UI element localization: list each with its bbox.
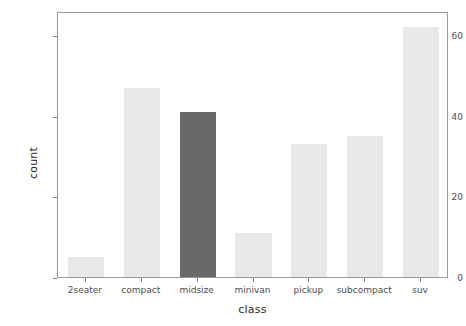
x-axis-title: class: [57, 303, 448, 316]
bar-subcompact[interactable]: [347, 136, 383, 277]
x-tick-label: 2seater: [68, 285, 102, 295]
x-tick-label: midsize: [179, 285, 213, 295]
bar-compact[interactable]: [124, 88, 160, 277]
x-tick-mark: [308, 278, 309, 282]
x-tick-mark: [420, 278, 421, 282]
x-tick-label: pickup: [294, 285, 324, 295]
bar-minivan[interactable]: [235, 233, 271, 277]
bar-pickup[interactable]: [291, 144, 327, 277]
x-tick-label: minivan: [234, 285, 270, 295]
y-tick-mark: [53, 278, 57, 279]
plot-panel: [57, 12, 448, 278]
x-tick-mark: [364, 278, 365, 282]
bar-suv[interactable]: [403, 27, 439, 277]
x-tick-mark: [85, 278, 86, 282]
x-tick-label: compact: [121, 285, 160, 295]
x-tick-mark: [141, 278, 142, 282]
x-tick-label: suv: [412, 285, 428, 295]
x-tick-mark: [253, 278, 254, 282]
bar-chart: count 0204060 2seatercompactmidsizeminiv…: [0, 0, 466, 326]
y-axis-title: count: [22, 0, 44, 326]
bar-midsize[interactable]: [180, 112, 216, 277]
x-tick-label: subcompact: [337, 285, 392, 295]
x-tick-mark: [197, 278, 198, 282]
bar-2seater[interactable]: [68, 257, 104, 277]
